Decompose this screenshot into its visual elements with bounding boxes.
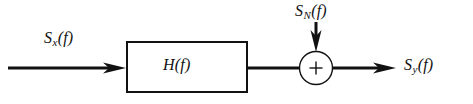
filter-label-argument: (f) (175, 56, 191, 73)
noise-label-subscript: N (303, 9, 311, 21)
filter-block-label: H(f) (163, 57, 190, 73)
input-label-base: S (44, 29, 52, 46)
block-diagram-figure: Sx(f) SN(f) H(f) Sy(f) (0, 0, 473, 104)
input-signal-label: Sx(f) (44, 30, 73, 48)
output-label-argument: (f) (418, 56, 434, 73)
diagram-canvas (0, 0, 473, 104)
input-label-argument: (f) (58, 29, 74, 46)
noise-label-argument: (f) (311, 2, 327, 19)
filter-label-base: H (163, 56, 175, 73)
output-label-base: S (404, 56, 412, 73)
output-signal-label: Sy(f) (404, 57, 433, 75)
noise-label-base: S (295, 2, 303, 19)
noise-signal-label: SN(f) (295, 3, 327, 21)
